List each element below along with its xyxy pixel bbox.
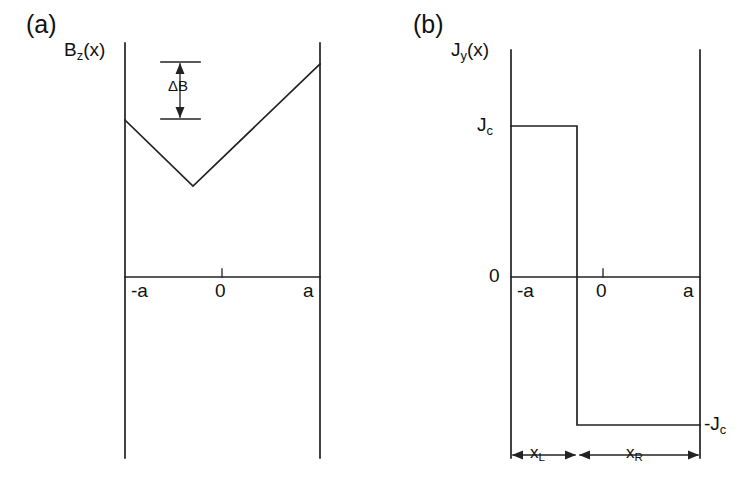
panel-b-y-axis-label: Jy(x) [451,40,489,63]
panel-a-graphics [125,43,320,458]
xr-arrowhead-left [579,451,590,460]
panel-a-field-curve [125,64,320,186]
xr-dimension-label-main: x [626,443,635,462]
panel-b-ytick-jc-main: J [477,114,487,135]
panel-b-current-curve [511,126,700,425]
panel-b-graphics [511,50,700,460]
panel-a-xtick-minus-a: -a [131,281,148,300]
figure-vector-layer [0,0,756,484]
xl-dimension-label: xL [530,444,545,464]
xl-dimension-label-main: x [530,443,539,462]
panel-a-xtick-zero: 0 [215,281,226,300]
panel-b-ytick-jc: Jc [477,115,493,138]
panel-b-y-axis-label-main: J [451,39,461,60]
xl-dimension-label-sub: L [539,451,545,463]
figure-canvas: (a) Bz(x) ΔB -a 0 a (b) Jy(x) Jc 0 -Jc -… [0,0,756,484]
xl-arrowhead-left [512,451,523,460]
panel-a-y-axis-label: Bz(x) [64,40,105,63]
panel-b-ytick-neg-jc: -Jc [704,414,726,437]
panel-b-ytick-neg-jc-sub: c [720,422,726,437]
panel-b-xtick-a: a [683,281,694,300]
panel-a-xtick-a: a [303,281,314,300]
xr-dimension-label: xR [626,444,643,464]
panel-a-y-axis-label-main: B [64,39,77,60]
panel-b-tag: (b) [413,12,444,37]
xr-arrowhead-right [688,451,699,460]
xr-dimension-label-sub: R [635,451,643,463]
delta-b-label: ΔB [168,78,188,93]
delta-b-arrowhead-up [176,63,185,74]
panel-b-xtick-minus-a: -a [517,281,534,300]
panel-b-y-axis-label-tail: (x) [467,39,489,60]
panel-a-y-axis-label-tail: (x) [83,39,105,60]
panel-b-ytick-jc-sub: c [487,123,493,138]
panel-b-ytick-neg-jc-main: -J [704,413,720,434]
panel-b-ytick-zero: 0 [489,266,500,285]
panel-b-xtick-zero: 0 [596,281,607,300]
xl-arrowhead-right [565,451,576,460]
delta-b-arrowhead-down [176,107,185,118]
panel-a-tag: (a) [26,12,57,37]
